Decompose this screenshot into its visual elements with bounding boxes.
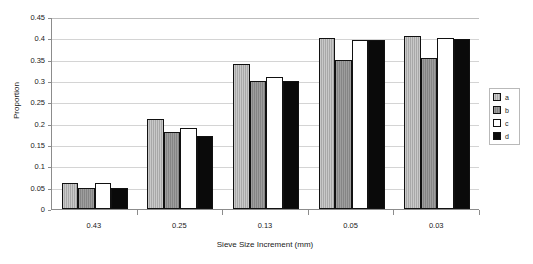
bar-c-0.13 <box>266 77 283 209</box>
bar-group <box>233 18 299 209</box>
bar-b-0.03 <box>421 58 438 209</box>
x-tick-label: 0.03 <box>406 221 466 230</box>
legend-swatch-c <box>493 119 501 127</box>
legend-swatch-a <box>493 93 501 101</box>
bar-a-0.13 <box>233 64 250 209</box>
x-tick-mark <box>479 210 480 215</box>
bar-d-0.43 <box>111 188 128 209</box>
y-tick-mark <box>48 103 51 104</box>
bar-d-0.13 <box>283 81 300 209</box>
y-tick-label: 0.35 <box>11 57 45 65</box>
legend-label: d <box>505 133 509 140</box>
bar-a-0.05 <box>319 38 336 209</box>
bar-group <box>147 18 213 209</box>
bar-c-0.05 <box>352 40 369 209</box>
bar-c-0.43 <box>95 183 112 209</box>
bar-b-0.13 <box>250 81 267 209</box>
bar-d-0.05 <box>368 40 385 209</box>
y-tick-mark <box>48 210 51 211</box>
y-tick-mark <box>48 61 51 62</box>
bar-a-0.25 <box>147 119 164 209</box>
legend-item-c: c <box>493 119 516 127</box>
legend-label: b <box>505 107 509 114</box>
x-tick-label: 0.05 <box>321 221 381 230</box>
y-tick-label: 0.4 <box>11 35 45 43</box>
x-axis-title: Sieve Size Increment (mm) <box>51 240 479 249</box>
legend-swatch-d <box>493 132 501 140</box>
y-tick-mark <box>48 82 51 83</box>
y-tick-mark <box>48 18 51 19</box>
bar-c-0.25 <box>180 128 197 209</box>
bar-b-0.25 <box>164 132 181 209</box>
x-tick-label: 0.25 <box>149 221 209 230</box>
bar-d-0.25 <box>197 136 214 209</box>
x-tick-label: 0.13 <box>235 221 295 230</box>
bar-c-0.03 <box>437 38 454 209</box>
y-tick-label: 0.05 <box>11 185 45 193</box>
y-tick-mark <box>48 146 51 147</box>
bar-b-0.43 <box>78 188 95 209</box>
chart-legend: abcd <box>489 88 520 145</box>
plot-area <box>51 18 479 210</box>
bar-a-0.43 <box>62 183 79 209</box>
legend-item-b: b <box>493 106 516 114</box>
bar-b-0.05 <box>335 60 352 209</box>
y-tick-mark <box>48 39 51 40</box>
legend-label: c <box>505 120 509 127</box>
x-tick-mark <box>393 210 394 215</box>
y-tick-label: 0.1 <box>11 163 45 171</box>
y-tick-mark <box>48 125 51 126</box>
y-tick-label: 0.25 <box>11 99 45 107</box>
y-tick-label: 0.15 <box>11 142 45 150</box>
y-tick-label: 0.2 <box>11 121 45 129</box>
x-tick-mark <box>137 210 138 215</box>
y-tick-label: 0.45 <box>11 14 45 22</box>
bar-group <box>62 18 128 209</box>
bar-group <box>319 18 385 209</box>
legend-label: a <box>505 94 509 101</box>
y-tick-label: 0 <box>11 206 45 214</box>
y-tick-label: 0.3 <box>11 78 45 86</box>
y-tick-mark <box>48 167 51 168</box>
x-tick-mark <box>222 210 223 215</box>
legend-swatch-b <box>493 106 501 114</box>
legend-item-d: d <box>493 132 516 140</box>
bar-chart: Proportion 00.050.10.150.20.250.30.350.4… <box>0 0 533 264</box>
legend-item-a: a <box>493 93 516 101</box>
x-tick-label: 0.43 <box>64 221 124 230</box>
bar-a-0.03 <box>404 36 421 209</box>
bar-d-0.03 <box>454 39 471 209</box>
y-tick-mark <box>48 189 51 190</box>
x-tick-mark <box>308 210 309 215</box>
bar-group <box>404 18 470 209</box>
